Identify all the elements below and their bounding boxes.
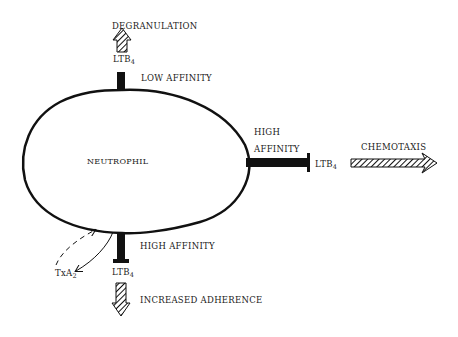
bottom-ligand-sub: 4 xyxy=(130,271,134,279)
chemotaxis-label: CHEMOTAXIS xyxy=(361,143,426,152)
bottom-receptor-stalk xyxy=(117,233,125,261)
right-ligand-sub: 4 xyxy=(333,163,337,171)
top-affinity-label: LOW AFFINITY xyxy=(141,74,212,83)
right-receptor-stalk xyxy=(246,158,308,167)
bottom-receptor-cap xyxy=(113,259,129,263)
txa2-label: TxA2 xyxy=(55,269,77,280)
top-receptor-stalk xyxy=(117,72,125,90)
bottom-affinity-label: HIGH AFFINITY xyxy=(140,242,215,251)
diagram-canvas xyxy=(0,0,458,337)
top-ligand-sub: 4 xyxy=(131,58,135,66)
adherence-arrow xyxy=(112,283,130,316)
neutrophil-label: NEUTROPHIL xyxy=(87,158,148,166)
degranulation-label: DEGRANULATION xyxy=(112,22,198,31)
txa2-feedback-arrow xyxy=(56,230,95,265)
txa2-sub: 2 xyxy=(73,272,77,280)
bottom-ligand-base: LTB xyxy=(112,267,130,277)
top-ligand-base: LTB xyxy=(113,54,131,64)
right-ligand-base: LTB xyxy=(315,159,333,169)
right-ligand-label: LTB4 xyxy=(315,160,337,171)
right-affinity-label-line1: HIGH xyxy=(254,128,280,137)
chemotaxis-arrow xyxy=(351,153,437,173)
adherence-label: INCREASED ADHERENCE xyxy=(140,296,263,305)
txa2-base: TxA xyxy=(55,268,73,278)
degranulation-arrow xyxy=(113,28,131,52)
bottom-ligand-label: LTB4 xyxy=(112,268,134,279)
top-ligand-label: LTB4 xyxy=(113,55,135,66)
right-affinity-label-line2: AFFINITY xyxy=(254,145,300,154)
right-receptor-cap xyxy=(307,153,310,172)
